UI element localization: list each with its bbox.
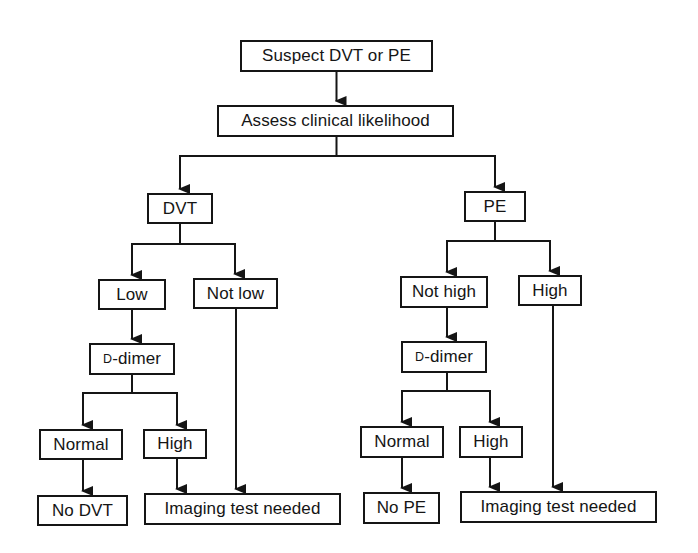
node-pe: PE xyxy=(464,191,526,222)
node-label: Normal xyxy=(53,435,108,455)
node-pe-d-dimer: D-dimer xyxy=(401,341,487,373)
node-pe-d-dimer-high: High xyxy=(459,426,523,458)
node-pe-d-dimer-normal: Normal xyxy=(360,426,444,458)
node-label: Suspect DVT or PE xyxy=(262,46,411,66)
node-label-prefix: D xyxy=(415,350,424,364)
node-label: No DVT xyxy=(52,501,113,521)
node-assess-clinical-likelihood: Assess clinical likelihood xyxy=(217,105,454,137)
node-label: PE xyxy=(484,197,507,217)
node-dvt-d-dimer: D-dimer xyxy=(89,343,175,375)
node-pe-imaging-test-needed: Imaging test needed xyxy=(460,491,657,523)
connector-arrow xyxy=(132,393,177,425)
node-label: High xyxy=(473,432,508,452)
node-label: Assess clinical likelihood xyxy=(241,111,430,131)
node-label: Normal xyxy=(374,432,429,452)
node-label: DVT xyxy=(163,199,197,219)
node-label: High xyxy=(532,281,567,301)
node-label: Imaging test needed xyxy=(481,497,637,517)
connector-arrow xyxy=(447,391,490,422)
node-dvt-d-dimer-normal: Normal xyxy=(39,429,123,460)
node-label: High xyxy=(157,434,192,454)
node-label: Imaging test needed xyxy=(165,499,321,519)
connector-arrow xyxy=(337,156,496,187)
node-no-pe: No PE xyxy=(363,492,440,524)
node-label: Not low xyxy=(207,284,264,304)
node-no-dvt: No DVT xyxy=(37,495,128,526)
node-suspect-dvt-or-pe: Suspect DVT or PE xyxy=(240,40,433,72)
node-dvt: DVT xyxy=(147,193,213,224)
connector-arrow xyxy=(180,137,337,189)
node-pe-not-high: Not high xyxy=(400,276,488,308)
node-label: Not high xyxy=(412,282,476,302)
connector-arrow xyxy=(495,241,550,271)
node-dvt-imaging-test-needed: Imaging test needed xyxy=(144,493,341,525)
connector-layer xyxy=(0,0,698,553)
connector-arrow xyxy=(447,222,495,272)
node-pe-high: High xyxy=(518,275,582,306)
node-label-prefix: D xyxy=(103,352,112,366)
node-label: Low xyxy=(116,285,148,305)
flowchart-canvas: Suspect DVT or PE Assess clinical likeli… xyxy=(0,0,698,553)
node-dvt-low: Low xyxy=(98,279,166,310)
connector-arrow xyxy=(402,373,447,422)
connector-arrow xyxy=(132,224,180,275)
connector-arrow xyxy=(83,375,132,425)
node-label: -dimer xyxy=(424,347,473,367)
connector-arrow xyxy=(180,244,235,274)
node-label: -dimer xyxy=(112,349,161,369)
node-label: No PE xyxy=(377,498,427,518)
node-dvt-d-dimer-high: High xyxy=(143,429,207,459)
node-dvt-not-low: Not low xyxy=(193,278,278,309)
